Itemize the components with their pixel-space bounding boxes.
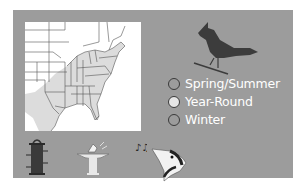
svg-text:♪♫: ♪♫	[135, 142, 147, 153]
legend-item-winter: Winter	[168, 111, 280, 129]
tube-feeder-icon	[25, 137, 49, 177]
legend-item-spring-summer: Spring/Summer	[168, 75, 280, 93]
year-round-swatch	[168, 96, 180, 108]
legend-item-year-round: Year-Round	[168, 93, 280, 111]
birdbath-icon	[73, 140, 113, 176]
winter-swatch	[168, 114, 180, 126]
range-map	[25, 22, 141, 131]
cardinal-silhouette-icon	[188, 18, 268, 78]
spring-summer-swatch	[168, 78, 180, 90]
legend-label: Year-Round	[185, 95, 253, 109]
range-map-panel: Spring/Summer Year-Round Winter ♪♫	[13, 10, 293, 178]
music-notes-icon: ♪♫	[135, 140, 147, 154]
legend-label: Spring/Summer	[185, 77, 280, 91]
range-legend: Spring/Summer Year-Round Winter	[168, 75, 280, 129]
woodpecker-head-icon	[150, 147, 190, 183]
us-map-icon	[25, 22, 141, 131]
legend-label: Winter	[185, 113, 225, 127]
